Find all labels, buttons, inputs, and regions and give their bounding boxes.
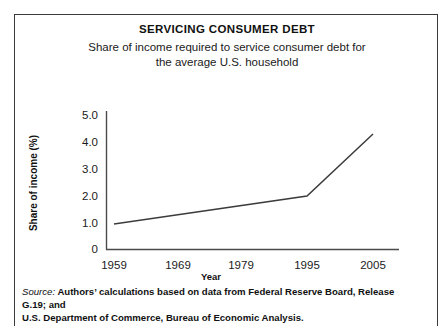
y-tick-label-2: 2.0 bbox=[82, 190, 98, 202]
y-tick-label-3: 3.0 bbox=[82, 163, 98, 175]
source-label: Source: bbox=[22, 286, 55, 297]
y-axis-title: Share of income (%) bbox=[28, 135, 39, 231]
figure-border-box: SERVICING CONSUMER DEBT Share of income … bbox=[14, 14, 438, 326]
x-tick-label-1979: 1979 bbox=[228, 259, 254, 271]
data-series-line bbox=[114, 134, 373, 224]
x-tick-label-1995: 1995 bbox=[294, 259, 320, 271]
x-tick-label-1959: 1959 bbox=[101, 259, 127, 271]
y-tick-label-4: 4.0 bbox=[82, 136, 98, 148]
x-tick-label-1969: 1969 bbox=[165, 259, 191, 271]
plot-area: 5.0 4.0 3.0 2.0 1.0 0 Share of income (%… bbox=[15, 15, 439, 327]
x-tick-label-2005: 2005 bbox=[360, 259, 386, 271]
source-text-line-1: Authors’ calculations based on data from… bbox=[22, 286, 394, 310]
y-tick-label-1: 1.0 bbox=[82, 217, 98, 229]
line-chart-svg: 5.0 4.0 3.0 2.0 1.0 0 Share of income (%… bbox=[1, 1, 444, 320]
source-text-line-2: U.S. Department of Commerce, Bureau of E… bbox=[22, 312, 304, 323]
x-axis-title: Year bbox=[201, 271, 221, 282]
y-tick-label-0: 0 bbox=[92, 243, 98, 255]
source-note: Source: Authors’ calculations based on d… bbox=[22, 285, 418, 324]
y-tick-label-5: 5.0 bbox=[82, 109, 98, 121]
